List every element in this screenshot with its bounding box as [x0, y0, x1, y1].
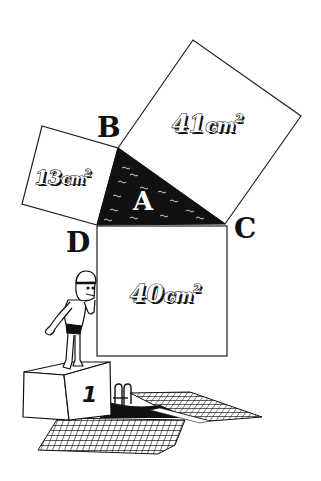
vertex-label-d: D: [66, 226, 90, 259]
starting-block: 1: [23, 362, 111, 420]
pool-ladder-icon: [113, 384, 131, 408]
swimmer-figure: [46, 271, 97, 369]
pythagoras-diagram: 41cm2 41cm2 13cm2 13cm2 A 40cm2: [0, 0, 321, 481]
triangle-label: A: [132, 186, 154, 216]
square-bottom-leg: 40cm2 40cm2: [97, 226, 227, 356]
vertex-label-b: B: [97, 111, 121, 144]
podium-number: 1: [82, 382, 97, 407]
vertex-label-c: C: [234, 212, 256, 245]
